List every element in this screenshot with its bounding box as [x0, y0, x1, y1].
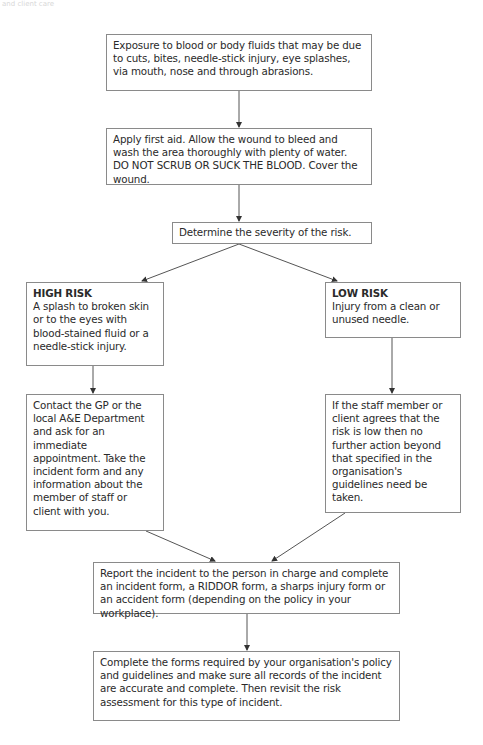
report-box: Report the incident to the person in cha…: [93, 562, 400, 614]
first-aid-box: Apply first aid. Allow the wound to blee…: [106, 128, 372, 185]
high-risk-action-box: Contact the GP or the local A&E Departme…: [26, 394, 164, 531]
low-risk-action-box: If the staff member or client agrees tha…: [325, 394, 461, 513]
high-risk-box: HIGH RISK A splash to broken skin or to …: [26, 282, 164, 366]
exposure-box: Exposure to blood or body fluids that ma…: [106, 34, 372, 91]
severity-box: Determine the severity of the risk.: [172, 222, 372, 244]
connector-arrows: [0, 0, 483, 745]
low-risk-text: Injury from a clean or unused needle.: [332, 300, 440, 325]
low-risk-box: LOW RISK Injury from a clean or unused n…: [325, 282, 461, 338]
report-text: Report the incident to the person in cha…: [100, 567, 388, 619]
low-risk-title: LOW RISK: [332, 287, 454, 300]
complete-forms-text: Complete the forms required by your orga…: [100, 656, 392, 708]
high-risk-title: HIGH RISK: [33, 287, 157, 300]
high-risk-action-text: Contact the GP or the local A&E Departme…: [33, 399, 145, 517]
exposure-text: Exposure to blood or body fluids that ma…: [113, 39, 361, 77]
severity-text: Determine the severity of the risk.: [179, 226, 351, 238]
complete-forms-box: Complete the forms required by your orga…: [93, 651, 400, 721]
first-aid-text: Apply first aid. Allow the wound to blee…: [113, 133, 357, 185]
low-risk-action-text: If the staff member or client agrees tha…: [332, 399, 442, 503]
high-risk-text: A splash to broken skin or to the eyes w…: [33, 300, 149, 352]
